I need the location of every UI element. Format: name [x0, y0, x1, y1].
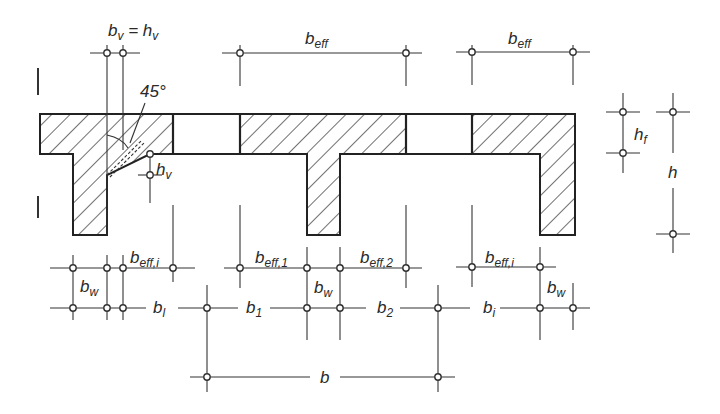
label-bi: bi: [483, 298, 495, 320]
label-bv-eq-hv: bv = hv: [108, 21, 159, 43]
label-beff-i-right: beff,i: [485, 248, 514, 270]
label-hv: hv: [156, 160, 172, 182]
label-beff-i-left: beff,i: [130, 248, 159, 270]
label-bw-left: bw: [80, 277, 99, 299]
cross-section-diagram: bv = hv 45° beff beff hf h hv beff,i bef…: [0, 0, 720, 414]
label-b-total: b: [320, 368, 329, 387]
label-beff-top-2: beff: [508, 29, 532, 51]
middle-beam-section: [240, 114, 406, 235]
right-beam-section: [472, 114, 575, 235]
label-hf: hf: [634, 125, 648, 147]
dim-beff-top-1: [222, 45, 422, 86]
label-beff-1: beff,1: [255, 248, 288, 270]
label-bw-mid: bw: [314, 278, 333, 300]
label-bl: bl: [153, 298, 165, 320]
label-bw-right: bw: [547, 278, 566, 300]
label-h: h: [668, 163, 677, 182]
label-beff-2: beff,2: [360, 248, 393, 270]
dim-row-beff: [50, 205, 556, 340]
dim-beff-top-2: [456, 45, 590, 85]
label-beff-top-1: beff: [305, 29, 329, 51]
label-angle: 45°: [140, 82, 166, 101]
label-b2: b2: [377, 298, 393, 320]
label-b1: b1: [246, 298, 262, 320]
